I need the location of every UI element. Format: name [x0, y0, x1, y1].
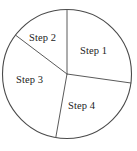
slice-label-step-3: Step 3 [16, 75, 43, 86]
slice-label-step-2: Step 2 [29, 33, 56, 44]
slice-label-step-4: Step 4 [68, 101, 95, 112]
slice-label-step-1: Step 1 [80, 46, 107, 57]
pie-chart-figure: Step 1 Step 4 Step 3 Step 2 [0, 0, 137, 151]
